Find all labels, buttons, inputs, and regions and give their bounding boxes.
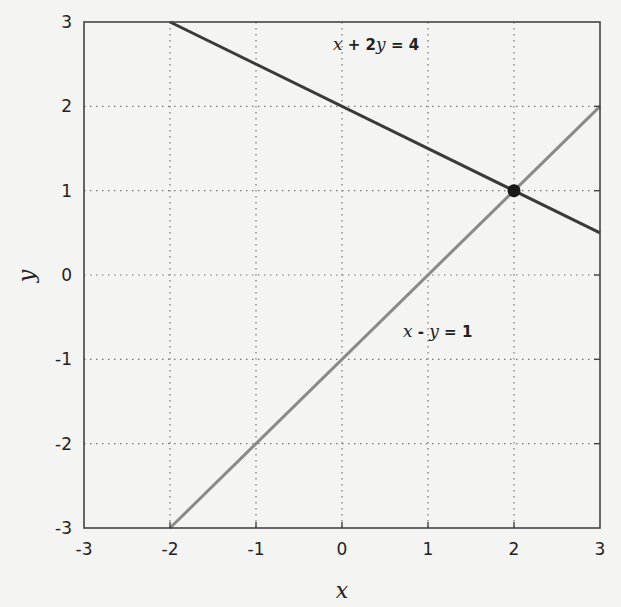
eq1-rhs: = 4 bbox=[386, 36, 419, 54]
x-tick-label: -1 bbox=[248, 539, 265, 559]
y-tick-label: 2 bbox=[61, 96, 72, 116]
x-tick-label: 0 bbox=[337, 539, 348, 559]
annotation-eq2: x - y = 1 bbox=[403, 321, 472, 341]
intersection-point bbox=[508, 184, 521, 197]
y-tick-label: -1 bbox=[55, 349, 72, 369]
x-tick-label: 1 bbox=[423, 539, 434, 559]
x-axis-label: x bbox=[336, 578, 349, 603]
y-tick-label: 3 bbox=[61, 12, 72, 32]
eq1-op: + 2 bbox=[343, 36, 376, 54]
y-tick-label: -3 bbox=[55, 518, 72, 538]
x-tick-label: -3 bbox=[76, 539, 93, 559]
eq2-var-x: x bbox=[403, 321, 413, 341]
eq2-op: - bbox=[413, 323, 430, 341]
y-tick-label: 0 bbox=[61, 265, 72, 285]
series-line-2 bbox=[170, 106, 600, 528]
data-points bbox=[508, 184, 521, 197]
annotation-eq1: x + 2y = 4 bbox=[333, 34, 419, 54]
y-tick-label: -2 bbox=[55, 434, 72, 454]
eq2-rhs: = 1 bbox=[439, 323, 472, 341]
y-axis-label: y bbox=[14, 269, 39, 283]
grid-lines bbox=[84, 22, 600, 528]
eq1-var-y: y bbox=[375, 34, 386, 54]
x-tick-label: 3 bbox=[595, 539, 606, 559]
chart: -3-2-10123 3210-1-2-3 x y x + 2y = 4 x -… bbox=[0, 0, 621, 607]
eq1-var-x: x bbox=[333, 34, 343, 54]
eq2-var-y: y bbox=[428, 321, 439, 341]
y-axis-ticks: 3210-1-2-3 bbox=[55, 12, 600, 538]
y-tick-label: 1 bbox=[61, 181, 72, 201]
x-tick-label: 2 bbox=[509, 539, 520, 559]
x-tick-label: -2 bbox=[162, 539, 179, 559]
